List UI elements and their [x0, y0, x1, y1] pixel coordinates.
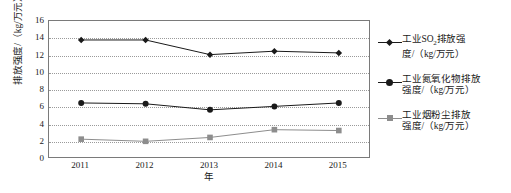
data-point-s2-2014[interactable] — [272, 127, 278, 133]
legend-label-dust: 工业烟粉尘排放强度/（kg/万元） — [402, 110, 475, 133]
x-tick-2013: 2013 — [200, 160, 218, 170]
legend-label-dust-line2: 强度/（kg/万元） — [402, 121, 475, 131]
y-tick-16: 16 — [35, 16, 44, 25]
data-point-s0-2013[interactable] — [207, 51, 214, 58]
diamond-marker-icon — [378, 36, 402, 49]
legend-item-dust[interactable]: 工业烟粉尘排放强度/（kg/万元） — [378, 110, 511, 133]
legend-item-nox[interactable]: 工业氮氧化物排放强度/（kg/万元） — [378, 74, 511, 97]
data-point-s1-2015[interactable] — [336, 100, 342, 106]
y-axis-tick-labels: 0246810121416 — [0, 20, 44, 158]
legend-label-so2-line2: 度/（kg/万元） — [402, 49, 465, 59]
x-tick-2012: 2012 — [136, 160, 154, 170]
data-point-s0-2014[interactable] — [271, 48, 278, 55]
data-point-s2-2012[interactable] — [143, 139, 149, 145]
legend-label-so2-line1: 工业SO2排放强 — [402, 34, 466, 44]
y-tick-4: 4 — [40, 119, 45, 128]
data-point-s0-2012[interactable] — [142, 37, 149, 44]
y-tick-2: 2 — [40, 136, 45, 145]
plot-area — [48, 20, 370, 158]
legend: 工业SO2排放强度/（kg/万元） 工业氮氧化物排放强度/（kg/万元） 工业烟… — [378, 34, 511, 146]
y-tick-0: 0 — [40, 154, 45, 163]
data-point-s1-2013[interactable] — [207, 107, 213, 113]
data-point-s1-2014[interactable] — [271, 103, 277, 109]
data-point-s2-2011[interactable] — [78, 136, 84, 142]
x-tick-2015: 2015 — [329, 160, 347, 170]
circle-marker-icon — [378, 76, 402, 89]
legend-label-nox-line1: 工业氮氧化物排放 — [402, 74, 480, 84]
y-tick-8: 8 — [40, 85, 45, 94]
chart-container: 排放强度/（kg/万元） 0246810121416 2011201220132… — [0, 0, 511, 193]
y-tick-14: 14 — [35, 33, 44, 42]
x-axis-title: 年 — [48, 172, 370, 183]
square-marker-icon — [378, 112, 402, 125]
legend-item-so2[interactable]: 工业SO2排放强度/（kg/万元） — [378, 34, 511, 61]
data-point-s1-2012[interactable] — [143, 101, 149, 107]
legend-label-nox: 工业氮氧化物排放强度/（kg/万元） — [402, 74, 480, 97]
y-tick-10: 10 — [35, 67, 44, 76]
data-point-s0-2015[interactable] — [336, 50, 343, 57]
x-tick-2011: 2011 — [71, 160, 89, 170]
legend-label-dust-line1: 工业烟粉尘排放 — [402, 110, 471, 120]
data-point-s1-2011[interactable] — [78, 100, 84, 106]
legend-label-so2: 工业SO2排放强度/（kg/万元） — [402, 34, 466, 61]
y-tick-12: 12 — [35, 50, 44, 59]
y-tick-6: 6 — [40, 102, 45, 111]
data-point-s2-2015[interactable] — [336, 128, 342, 134]
data-point-s2-2013[interactable] — [207, 135, 213, 141]
x-tick-2014: 2014 — [264, 160, 282, 170]
series-layer — [49, 21, 371, 159]
legend-label-nox-line2: 强度/（kg/万元） — [402, 85, 475, 95]
data-point-s0-2011[interactable] — [78, 37, 85, 44]
